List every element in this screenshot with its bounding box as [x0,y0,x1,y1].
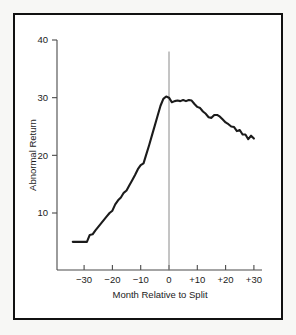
y-axis-ticks: 10203040 [37,34,57,218]
x-axis-title: Month Relative to Split [112,289,207,300]
chart-plot-area: 10203040 −30−20−100+10+20+30 Abnormal Re… [0,0,296,335]
abnormal-return-line [73,97,254,242]
x-tick-label: +10 [189,274,205,285]
x-tick-label: 0 [166,274,171,285]
x-tick-label: +30 [246,274,262,285]
x-tick-label: −10 [133,274,149,285]
y-tick-label: 40 [37,34,48,45]
x-tick-label: −20 [104,274,120,285]
figure-container: 10203040 −30−20−100+10+20+30 Abnormal Re… [0,0,296,335]
y-tick-label: 30 [37,92,48,103]
x-tick-label: −30 [76,274,92,285]
y-tick-label: 20 [37,150,48,161]
y-axis-title: Abnormal Return [27,119,38,191]
y-tick-label: 10 [37,207,48,218]
axes-group [57,40,262,270]
x-tick-label: +20 [218,274,234,285]
